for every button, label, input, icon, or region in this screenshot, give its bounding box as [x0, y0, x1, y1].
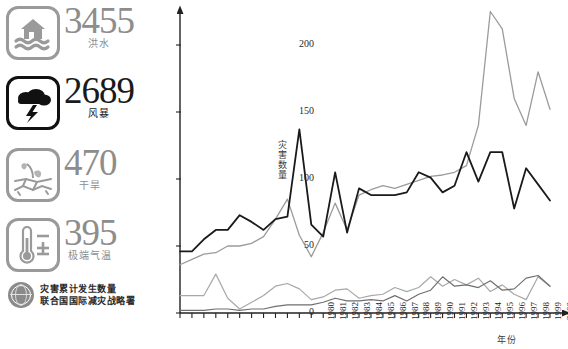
x-tick-label: 1995 [505, 302, 515, 320]
series-line-1 [180, 129, 550, 251]
x-tick-label: 1998 [541, 302, 551, 320]
drought-icon [6, 148, 60, 202]
disaster-stats-panel: 3455 洪水 2689 风暴 [0, 0, 142, 349]
un-logo-icon [8, 282, 34, 308]
x-tick-label: 1985 [386, 302, 396, 320]
x-tick-label: 1993 [481, 302, 491, 320]
x-tick-label: 1996 [517, 302, 527, 320]
series-line-0 [180, 12, 550, 265]
x-tick-label: 1994 [493, 302, 503, 320]
stat-label-extreme-temp: 极端气温 [64, 250, 117, 262]
x-tick-label: 1990 [445, 302, 455, 320]
stat-block-storm: 2689 风暴 [6, 76, 134, 130]
stat-value-drought: 470 [64, 144, 117, 182]
y-tick-label: 0 [284, 306, 314, 317]
x-tick-label: 1983 [362, 302, 372, 320]
infographic-root: 3455 洪水 2689 风暴 [0, 0, 568, 349]
x-tick-label: 1987 [410, 302, 420, 320]
y-tick-label: 150 [284, 105, 314, 116]
x-tick-label: 1986 [398, 302, 408, 320]
disaster-trend-chart: 灾害数量 年份 050100150200 1980198119821983198… [142, 0, 568, 349]
x-tick-label: 1992 [469, 302, 479, 320]
source-caption: 灾害累计发生数量 联合国国际减灾战略署 [40, 283, 135, 307]
flood-icon [6, 6, 60, 60]
storm-icon [6, 76, 60, 130]
stat-block-flood: 3455 洪水 [6, 6, 134, 60]
y-tick-label: 200 [284, 38, 314, 49]
x-axis-title: 年份 [497, 333, 517, 346]
stat-text-drought: 470 干旱 [64, 144, 117, 192]
x-tick-label: 1981 [338, 302, 348, 320]
source-line-2: 联合国国际减灾战略署 [40, 295, 135, 307]
stat-block-drought: 470 干旱 [6, 148, 117, 202]
chart-ticks [176, 45, 550, 318]
stat-text-storm: 2689 风暴 [64, 72, 134, 120]
source-line-1: 灾害累计发生数量 [40, 283, 135, 295]
x-tick-label: 1999 [553, 302, 563, 320]
y-tick-label: 100 [284, 172, 314, 183]
stat-block-extreme-temp: 395 极端气温 [6, 218, 117, 272]
x-tick-label: 1997 [529, 302, 539, 320]
stat-text-flood: 3455 洪水 [64, 2, 134, 50]
stat-value-extreme-temp: 395 [64, 214, 117, 252]
x-tick-label: 1988 [421, 302, 431, 320]
x-tick-label: 1991 [457, 302, 467, 320]
x-tick-label: 1982 [350, 302, 360, 320]
stat-text-extreme-temp: 395 极端气温 [64, 214, 117, 262]
x-tick-label: 1980 [326, 302, 336, 320]
x-tick-label: 1989 [433, 302, 443, 320]
chart-series-group [180, 12, 550, 311]
stat-value-storm: 2689 [64, 72, 134, 110]
x-tick-label: 1984 [374, 302, 384, 320]
chart-canvas [142, 0, 568, 349]
source-attribution: 灾害累计发生数量 联合国国际减灾战略署 [8, 282, 135, 308]
y-tick-label: 50 [284, 239, 314, 250]
extreme-temp-icon [6, 218, 60, 272]
stat-value-flood: 3455 [64, 2, 134, 40]
